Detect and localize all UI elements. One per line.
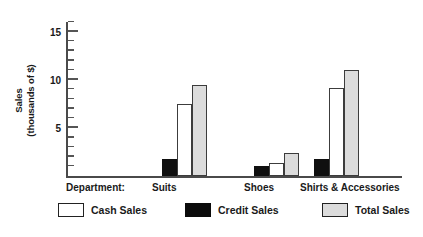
chart-legend: Cash Sales Credit Sales Total Sales bbox=[0, 203, 423, 233]
bar-credit-0 bbox=[162, 159, 177, 176]
category-label-shoes: Shoes bbox=[244, 182, 274, 193]
bar-cash-0 bbox=[177, 104, 192, 176]
y-tick-minor-12 bbox=[68, 59, 74, 61]
bar-total-0 bbox=[192, 85, 207, 176]
y-tick-minor-11 bbox=[68, 69, 74, 71]
y-tick-minor-2 bbox=[68, 155, 74, 157]
bar-total-1 bbox=[284, 153, 299, 176]
y-tick-minor-7 bbox=[68, 107, 74, 109]
y-tick-major-10 bbox=[68, 78, 78, 80]
y-tick-label-15: 15 bbox=[50, 26, 61, 37]
category-label-shirts-accessories: Shirts & Accessories bbox=[300, 182, 400, 193]
y-tick-label-10: 10 bbox=[50, 74, 61, 85]
y-tick-minor-8 bbox=[68, 98, 74, 100]
y-tick-minor-16 bbox=[68, 21, 74, 23]
legend-swatch-total-icon bbox=[322, 203, 348, 217]
category-label-row: Department: Suits Shoes Shirts & Accesso… bbox=[0, 182, 423, 198]
y-tick-minor-1 bbox=[68, 165, 74, 167]
y-tick-major-5 bbox=[68, 126, 78, 128]
legend-item-cash-sales: Cash Sales bbox=[58, 203, 147, 217]
y-tick-minor-13 bbox=[68, 49, 74, 51]
y-tick-major-15 bbox=[68, 30, 78, 32]
y-tick-minor-3 bbox=[68, 146, 74, 148]
y-axis-title-line2: (thousands of $) bbox=[24, 64, 36, 136]
legend-swatch-cash-icon bbox=[58, 203, 84, 217]
legend-label-credit-sales: Credit Sales bbox=[218, 204, 279, 216]
legend-item-total-sales: Total Sales bbox=[322, 203, 410, 217]
bar-cash-2 bbox=[329, 88, 344, 176]
y-tick-minor-9 bbox=[68, 88, 74, 90]
y-tick-label-5: 5 bbox=[55, 122, 61, 133]
y-axis-title: Sales (thousands of $) bbox=[2, 28, 46, 173]
x-axis-line bbox=[66, 176, 402, 178]
legend-label-total-sales: Total Sales bbox=[355, 204, 410, 216]
y-tick-minor-6 bbox=[68, 117, 74, 119]
bar-credit-2 bbox=[314, 159, 329, 176]
y-tick-minor-14 bbox=[68, 40, 74, 42]
y-tick-minor-4 bbox=[68, 136, 74, 138]
plot-area: 51015 bbox=[66, 22, 402, 178]
legend-item-credit-sales: Credit Sales bbox=[185, 203, 279, 217]
legend-label-cash-sales: Cash Sales bbox=[91, 204, 147, 216]
legend-swatch-credit-icon bbox=[185, 203, 211, 217]
y-axis-title-line1: Sales bbox=[13, 64, 25, 136]
bar-cash-1 bbox=[269, 163, 284, 176]
department-prefix-label: Department: bbox=[66, 182, 125, 193]
bar-total-2 bbox=[344, 70, 359, 176]
category-label-suits: Suits bbox=[152, 182, 176, 193]
bar-credit-1 bbox=[254, 166, 269, 176]
sales-bar-chart: Sales (thousands of $) 51015 Department:… bbox=[0, 0, 423, 237]
